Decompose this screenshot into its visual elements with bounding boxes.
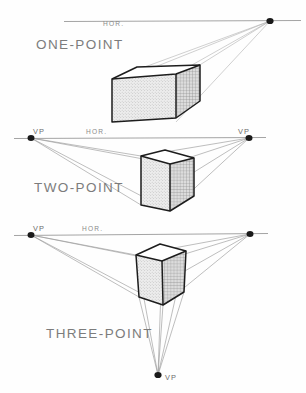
panel-two-point: VP VP HOR. TWO-POINT	[14, 127, 266, 211]
horizon-label-two-point: HOR.	[86, 128, 107, 135]
vp-label-two-point-left: VP	[33, 127, 45, 136]
horizon-label-three-point: HOR.	[82, 225, 103, 232]
panel-three-point: VP HOR. THREE-POINT VP	[14, 224, 268, 382]
panel-title-two-point: TWO-POINT	[34, 180, 124, 195]
panel-title-one-point: ONE-POINT	[36, 37, 124, 52]
vanishing-point-dot-three-point-bottom	[154, 372, 161, 378]
vp-label-three-point-bottom: VP	[165, 373, 177, 382]
vp-label-three-point-left: VP	[33, 224, 45, 233]
panel-title-three-point: THREE-POINT	[46, 326, 153, 341]
perspective-diagram: HOR. ONE-POINT	[0, 0, 306, 393]
horizon-line-three-point	[14, 234, 268, 236]
box-front-face-one-point	[112, 74, 176, 122]
perspective-canvas: HOR. ONE-POINT	[0, 0, 306, 393]
cube-front-face-two-point	[141, 156, 170, 211]
vanishing-point-dot-three-point-right	[247, 231, 254, 237]
horizon-line-one-point	[64, 21, 301, 22]
vp-label-two-point-right: VP	[238, 127, 250, 136]
horizon-line-two-point	[14, 138, 266, 139]
horizon-label-one-point: HOR.	[103, 20, 124, 27]
panel-one-point: HOR. ONE-POINT	[36, 18, 301, 122]
vanishing-point-dot-one-point-right	[266, 18, 273, 24]
